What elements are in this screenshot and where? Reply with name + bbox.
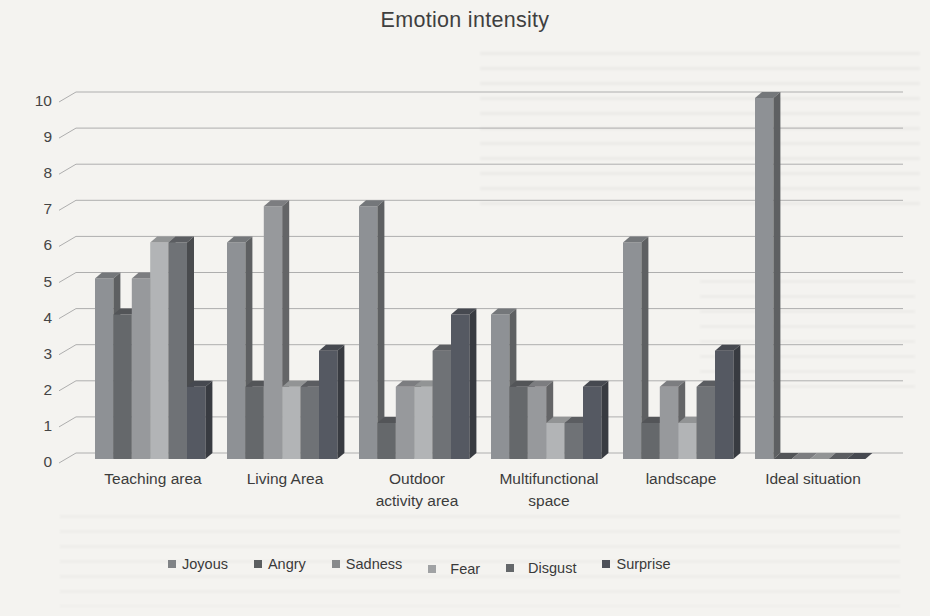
x-category-label-line: Teaching area [104,470,202,487]
bar-front-face [509,387,527,459]
bar-side-face [337,345,344,459]
bar-group-living-area [227,200,344,459]
bar-front-face [623,242,641,459]
x-category-label-line: Outdoor [389,470,445,487]
bar-side-face [733,345,740,459]
x-category-label-teaching-area: Teaching area [104,470,202,487]
legend-item-angry: Angry [254,556,306,572]
bar-front-face [433,351,451,459]
bar-front-face [169,242,187,459]
x-category-label-line: Multifunctional [499,470,598,487]
bar-front-face [264,206,282,459]
y-tick-label-7: 7 [43,200,52,217]
y-tick-label-6: 6 [43,236,52,253]
x-category-label-line: space [528,492,569,509]
bar-group-teaching-area [95,236,212,459]
bar-front-face [565,423,583,459]
bar-front-face [697,387,715,459]
bar-surprise-teaching-area [187,381,212,459]
legend-label-fear: Fear [450,561,480,577]
bar-side-face [773,92,780,459]
legend-label-surprise: Surprise [616,556,670,572]
bar-front-face [583,387,601,459]
x-category-label-landscape: landscape [646,470,717,487]
legend-item-disgust: Disgust [506,560,576,576]
bar-front-face [113,315,131,459]
x-category-label-multifunctional-space: Multifunctionalspace [499,470,598,509]
y-tick-label-5: 5 [43,273,52,290]
legend-swatch-disgust [506,564,514,572]
bar-front-face [715,351,733,459]
y-tick-label-4: 4 [43,309,52,326]
bar-front-face [282,387,300,459]
bar-front-face [187,387,205,459]
bar-group-multifunctional-space [491,309,608,459]
x-category-label-line: activity area [376,492,459,509]
legend-label-disgust: Disgust [528,560,576,576]
bar-front-face [660,387,678,459]
legend-label-angry: Angry [268,556,306,572]
legend: JoyousAngrySadnessFearDisgustSurprise [168,556,670,572]
y-tick-label-3: 3 [43,345,52,362]
emotion-intensity-chart: 012345678910Teaching areaLiving AreaOutd… [0,0,930,616]
bar-front-face [319,351,337,459]
legend-swatch-surprise [602,560,610,568]
bar-front-face [227,242,245,459]
bar-front-face [451,315,469,459]
y-tick-label-1: 1 [43,417,52,434]
bar-surprise-multifunctional-space [583,381,608,459]
bar-surprise-landscape [715,345,740,459]
bar-joyous-ideal-situation [755,92,780,459]
legend-item-joyous: Joyous [168,556,228,572]
x-category-label-ideal-situation: Ideal situation [765,470,861,487]
y-tick-label-8: 8 [43,164,52,181]
bar-front-face [301,387,319,459]
y-tick-label-0: 0 [43,453,52,470]
bar-group-landscape [623,236,740,459]
x-category-label-outdoor-activity-area: Outdooractivity area [376,470,459,509]
bar-group-outdoor-activity-area [359,200,476,459]
x-category-label-line: Ideal situation [765,470,861,487]
legend-swatch-angry [254,560,262,568]
bar-front-face [755,98,773,459]
y-tick-label-9: 9 [43,128,52,145]
legend-item-sadness: Sadness [332,556,402,572]
legend-label-sadness: Sadness [346,556,402,572]
bar-front-face [95,279,113,460]
legend-label-joyous: Joyous [182,556,228,572]
bar-side-face [469,309,476,459]
bar-front-face [641,423,659,459]
bar-side-face [205,381,212,459]
bar-front-face [245,387,263,459]
bar-group-ideal-situation [755,92,872,459]
x-category-label-living-area: Living Area [247,470,324,487]
bar-front-face [359,206,377,459]
legend-item-surprise: Surprise [602,556,670,572]
legend-swatch-fear [428,565,436,573]
bar-surprise-living-area [319,345,344,459]
bar-front-face [546,423,564,459]
y-tick-label-2: 2 [43,381,52,398]
bar-front-face [528,387,546,459]
legend-swatch-joyous [168,560,176,568]
x-category-label-line: Living Area [247,470,324,487]
legend-swatch-sadness [332,560,340,568]
bar-front-face [678,423,696,459]
bar-front-face [396,387,414,459]
bar-front-face [377,423,395,459]
bar-side-face [601,381,608,459]
bar-front-face [491,315,509,459]
scanned-chart-page: Emotion intensity 012345678910Teaching a… [0,0,930,616]
bar-front-face [414,387,432,459]
x-category-label-line: landscape [646,470,717,487]
bar-front-face [150,242,168,459]
legend-item-fear: Fear [428,561,480,577]
bar-front-face [132,279,150,460]
bar-surprise-outdoor-activity-area [451,309,476,459]
y-tick-label-10: 10 [35,92,53,109]
